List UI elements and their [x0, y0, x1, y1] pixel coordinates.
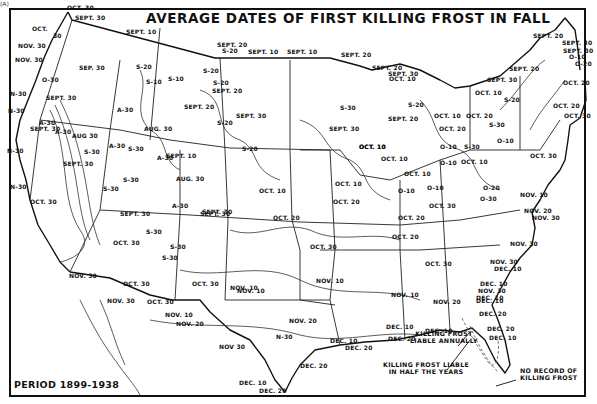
isoline-label: S-10 [146, 79, 162, 85]
isoline-label: DEC. 20 [388, 336, 416, 342]
note-killing-frost-half-years: KILLING FROST LIABLE IN HALF THE YEARS [383, 361, 469, 375]
isoline-label: OCT. 30 [113, 240, 140, 246]
isoline-label: OCT. 10 [359, 144, 386, 150]
isoline-label: OCT. 30 [67, 5, 94, 11]
isoline-label: SEPT. 10 [126, 29, 156, 35]
isoline-label: A-30 [117, 107, 133, 113]
isoline-label: O-10 [497, 138, 514, 144]
isoline-label: AUG 30 [72, 133, 98, 139]
isoline-label: SEPT. 10 [287, 49, 317, 55]
isoline-label: NOV 30 [219, 344, 245, 350]
isoline-label: NOV. 10 [165, 312, 193, 318]
isoline-label: OCT. 10 [389, 76, 416, 82]
isoline-label: SEPT. 30 [75, 15, 105, 21]
isoline-label: O-30 [42, 77, 59, 83]
note-line: LIABLE ANNUALLY [410, 337, 478, 344]
isoline-label: DEC. 10 [489, 335, 517, 341]
isoline-label: S-30 [464, 144, 480, 150]
isoline-label: N-30 [276, 334, 293, 340]
isoline-label: OCT. 20 [439, 126, 466, 132]
note-no-record: NO RECORD OF KILLING FROST [520, 367, 577, 381]
isoline-label: SEPT. 10 [248, 49, 278, 55]
isoline-label: SEPT. 30 [236, 113, 266, 119]
isoline-label: S-30 [84, 149, 100, 155]
isoline-label: O-10 [398, 188, 415, 194]
isoline-label: O-10 [440, 160, 457, 166]
isoline-label: A-30 [172, 203, 188, 209]
isoline-label: SEPT. 20 [341, 52, 371, 58]
isoline-label: S-10 [168, 76, 184, 82]
isoline-label: OCT. 10 [381, 156, 408, 162]
isoline-label: OCT. 10 [335, 181, 362, 187]
isoline-label: OCT. 30 [147, 299, 174, 305]
isoline-label: DEC. 20 [345, 345, 373, 351]
isoline-label: S-20 [222, 48, 238, 54]
isoline-label: OCT. 20 [466, 113, 493, 119]
isoline-label: SEPT. 20 [184, 104, 214, 110]
isoline-label: NOV. 30 [69, 273, 97, 279]
isoline-label: SEPT. 30 [120, 211, 150, 217]
isoline-label: SEPT. 20 [509, 66, 539, 72]
isoline-label: DEC. 10 [476, 298, 504, 304]
isoline-label: DEC. 20 [479, 311, 507, 317]
isoline-label: OCT. 30 [310, 244, 337, 250]
isoline-label: N-30 [8, 108, 25, 114]
isoline-label: SEPT. 30 [562, 40, 592, 46]
isoline-label: DEC. 20 [487, 326, 515, 332]
isoline-label: NOV. 10 [520, 192, 548, 198]
isoline-label: SEPT. 30 [63, 161, 93, 167]
isoline-label: SEP. 30 [79, 65, 105, 71]
isoline-label: O-10 [427, 185, 444, 191]
isoline-label: N-30 [10, 91, 27, 97]
isoline-label: OCT. 20 [333, 199, 360, 205]
isoline-label: N-30 [10, 184, 27, 190]
isoline-label: S-30 [128, 146, 144, 152]
isoline-label: S-20 [504, 97, 520, 103]
isoline-label: DEC. 20 [300, 363, 328, 369]
isoline-label: S-20 [242, 146, 258, 152]
isoline-label: OCT. [32, 26, 48, 32]
isoline-label: S-30 [103, 186, 119, 192]
isoline-label: S-20 [408, 102, 424, 108]
isoline-label: OCT. 30 [192, 281, 219, 287]
isoline-label: SEPT. 20 [533, 33, 563, 39]
isoline-label: OCT. 20 [392, 234, 419, 240]
isoline-label: S-30 [170, 244, 186, 250]
isoline-label: OCT. 20 [563, 80, 590, 86]
note-line: NO RECORD OF [520, 367, 577, 374]
isoline-label: OCT. 10 [461, 159, 488, 165]
isoline-label: S-30 [162, 255, 178, 261]
isoline-label: NOV. 10 [391, 292, 419, 298]
isoline-label: O-20 [575, 61, 592, 67]
period-label: PERIOD 1899-1938 [14, 379, 119, 390]
isoline-label: NOV. 30 [15, 57, 43, 63]
isoline-label: OCT. 10 [434, 113, 461, 119]
isoline-label: S-20 [136, 64, 152, 70]
isoline-label: SEPT. 20 [388, 116, 418, 122]
isoline-label: DEC. 20 [259, 388, 287, 394]
isoline-label: OCT. 30 [564, 113, 591, 119]
isoline-label: OCT. 10 [475, 90, 502, 96]
note-line: KILLING FROST [520, 374, 577, 381]
isoline-label: S-30 [123, 177, 139, 183]
isoline-label: O-10 [440, 144, 457, 150]
isoline-label: DEC. 10 [239, 380, 267, 386]
isoline-label: SEPT. 30 [329, 126, 359, 132]
isoline-label: AUG. 30 [176, 176, 204, 182]
isoline-label: OCT. 20 [398, 215, 425, 221]
isoline-label: OCT. 20 [553, 103, 580, 109]
isoline-label: S-20 [203, 68, 219, 74]
isoline-label: AUG. 30 [144, 126, 172, 132]
isoline-label: A-30 [157, 155, 173, 161]
isoline-label: OCT. 10 [404, 171, 431, 177]
isoline-label: OCT. 30 [30, 199, 57, 205]
isoline-label: OCT. 30 [429, 203, 456, 209]
isoline-label: NOV. 20 [289, 318, 317, 324]
isoline-label: OCT. 20 [273, 215, 300, 221]
isoline-label: S-30 [146, 229, 162, 235]
isoline-label: S-30 [489, 122, 505, 128]
isoline-label: OCT. 30 [530, 153, 557, 159]
isoline-label: SEPT. 20 [212, 88, 242, 94]
isoline-label: N-30 [7, 148, 24, 154]
isoline-label: DEC. 10 [425, 328, 453, 334]
